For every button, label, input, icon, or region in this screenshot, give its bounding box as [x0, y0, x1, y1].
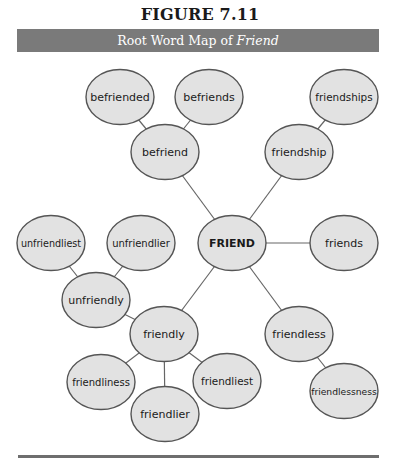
node-label: friendliest — [201, 375, 253, 387]
node-friendliness: friendliness — [67, 355, 135, 410]
node-label: unfriendly — [68, 294, 124, 307]
node-label: unfriendlier — [112, 238, 171, 249]
nodes: FRIENDbefriendbefriendedbefriendsfriends… — [17, 70, 378, 442]
node-label: friendlessness — [311, 386, 377, 397]
bottom-rule — [18, 455, 379, 458]
node-label: friendlier — [140, 408, 190, 421]
node-label: befriended — [90, 91, 150, 104]
node-label: friendly — [143, 328, 185, 341]
node-label: friendship — [272, 146, 327, 159]
node-label: FRIEND — [209, 237, 255, 250]
node-friendlier: friendlier — [131, 387, 199, 442]
node-friend: FRIEND — [198, 216, 266, 271]
node-befriend: befriend — [131, 125, 199, 180]
node-label: friends — [325, 237, 363, 250]
node-friends: friends — [310, 216, 378, 271]
node-unfriendly: unfriendly — [62, 273, 130, 328]
node-label: befriends — [183, 91, 235, 104]
root-word-map: FRIENDbefriendbefriendedbefriendsfriends… — [0, 0, 400, 467]
node-befriended: befriended — [86, 70, 154, 125]
node-friendliest: friendliest — [193, 354, 261, 409]
node-friendship: friendship — [265, 125, 333, 180]
node-friendships: friendships — [310, 70, 378, 125]
node-label: unfriendliest — [21, 238, 81, 249]
node-friendly: friendly — [130, 307, 198, 362]
node-befriends: befriends — [175, 70, 243, 125]
node-unfriendlier: unfriendlier — [107, 216, 175, 271]
node-label: friendliness — [72, 377, 130, 388]
node-friendlessness: friendlessness — [310, 364, 378, 419]
node-label: friendships — [315, 91, 372, 103]
node-unfriendliest: unfriendliest — [17, 216, 85, 271]
node-friendless: friendless — [265, 307, 333, 362]
node-label: befriend — [142, 146, 188, 159]
node-label: friendless — [272, 328, 326, 341]
